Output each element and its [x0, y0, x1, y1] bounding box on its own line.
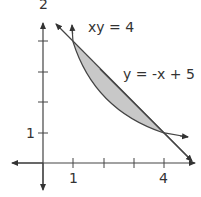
- curve-label: xy = 4: [88, 19, 134, 35]
- y-tick-label-2: 2: [39, 0, 48, 12]
- line-label: y = -x + 5: [123, 66, 195, 82]
- graph: xy = 4 y = -x + 5 1 4 1 2: [0, 0, 201, 197]
- y-tick-label-1: 1: [26, 125, 35, 141]
- x-tick-label-4: 4: [159, 170, 168, 186]
- x-tick-label-1: 1: [69, 170, 78, 186]
- curve-xy-4: [72, 27, 188, 137]
